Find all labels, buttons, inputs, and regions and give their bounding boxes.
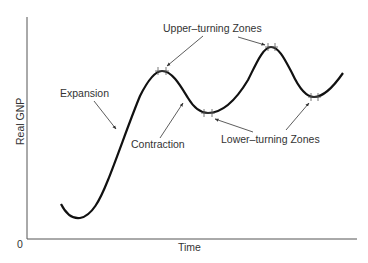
y-axis-label: Real GNP: [14, 98, 26, 145]
x-axis-label: Time: [178, 241, 201, 253]
upper-turning-label: Upper–turning Zones: [163, 22, 262, 34]
expansion-label: Expansion: [60, 87, 109, 99]
annotation-arrows: [94, 36, 309, 138]
business-cycle-diagram: 0 Time Real GNP Upper–turning Zones Expa…: [0, 0, 368, 263]
contraction-label: Contraction: [131, 138, 185, 150]
origin-label: 0: [17, 238, 23, 250]
lower-turning-label: Lower–turning Zones: [221, 133, 320, 145]
